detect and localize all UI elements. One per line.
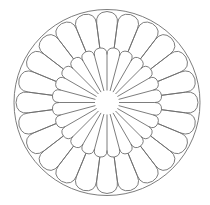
inner-petal [119, 144, 132, 154]
inner-petal [153, 103, 161, 116]
outer-circle [14, 10, 200, 196]
radial-line [119, 90, 154, 99]
inner-petal [52, 103, 60, 116]
inner-petal [71, 136, 83, 147]
inner-petal [131, 136, 143, 147]
inner-petal [94, 149, 107, 157]
radial-line [61, 106, 96, 115]
inner-petal [82, 51, 95, 61]
outer-petal [96, 12, 117, 48]
inner-petal [148, 115, 158, 128]
outer-petal [26, 51, 63, 81]
inner-petal [56, 115, 66, 128]
inner-petal [94, 48, 107, 56]
inner-petal [141, 126, 152, 138]
inner-petal [56, 77, 66, 90]
radial-line [110, 114, 119, 149]
outer-petal-ring [16, 12, 198, 194]
inner-petal [52, 90, 60, 103]
chrysanthemum-figure: Chrysanthemum petal line drawing [0, 0, 210, 205]
inner-petal [119, 51, 132, 61]
inner-petal [62, 66, 73, 78]
chrysanthemum-drawing [0, 0, 210, 205]
inner-petal [153, 90, 161, 103]
radial-line [110, 56, 119, 91]
inner-petal [71, 57, 83, 68]
radial-lines [59, 55, 155, 151]
outer-petal [16, 92, 52, 113]
inner-petal [107, 48, 120, 56]
outer-petal [128, 22, 158, 59]
radial-line [95, 114, 104, 149]
inner-petal [131, 57, 143, 68]
radial-line [119, 106, 154, 115]
radial-line [95, 56, 104, 91]
inner-petal [141, 66, 152, 78]
outer-petal [162, 92, 198, 113]
outer-petal [56, 146, 86, 183]
outer-petal [151, 124, 188, 154]
radial-line [61, 90, 96, 99]
inner-petal [107, 149, 120, 157]
inner-petal [148, 77, 158, 90]
inner-petal [62, 126, 73, 138]
inner-petal [82, 144, 95, 154]
outer-petal [96, 157, 117, 193]
